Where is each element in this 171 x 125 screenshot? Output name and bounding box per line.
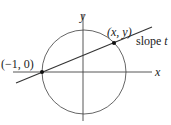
slope-label-var: t [164,34,168,48]
slope-label-prefix: slope [136,34,164,48]
point-x-y [112,41,116,45]
point-neg1-0-label: (−1, 0) [1,57,34,71]
point-x-y-label: (x, y) [107,25,132,39]
unit-circle-diagram: y x (−1, 0) (x, y) slope t [0,0,171,125]
point-neg1-0 [40,70,44,74]
x-axis-label: x [154,65,161,79]
slope-label: slope t [136,34,168,48]
y-axis-label: y [79,9,86,23]
diagram-svg: y x (−1, 0) (x, y) slope t [0,0,171,125]
